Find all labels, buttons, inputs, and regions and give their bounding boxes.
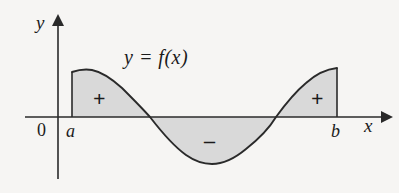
right-positive-region — [276, 68, 337, 117]
plus-sign-left: + — [93, 88, 106, 110]
upper-limit-label-b: b — [331, 122, 340, 140]
left-positive-region — [72, 70, 150, 117]
function-label: y = f(x) — [124, 47, 188, 67]
y-axis-arrowhead — [52, 14, 64, 26]
lower-limit-label-a: a — [66, 122, 75, 140]
figure-canvas — [0, 0, 399, 193]
plus-sign-right: + — [311, 88, 324, 110]
minus-sign: – — [204, 130, 215, 152]
x-axis-arrowhead — [381, 111, 393, 123]
net-area-figure: y x 0 a b y = f(x) + – + — [0, 0, 399, 193]
origin-label: 0 — [37, 121, 46, 139]
y-axis-label: y — [36, 13, 44, 32]
x-axis-label: x — [364, 116, 372, 135]
